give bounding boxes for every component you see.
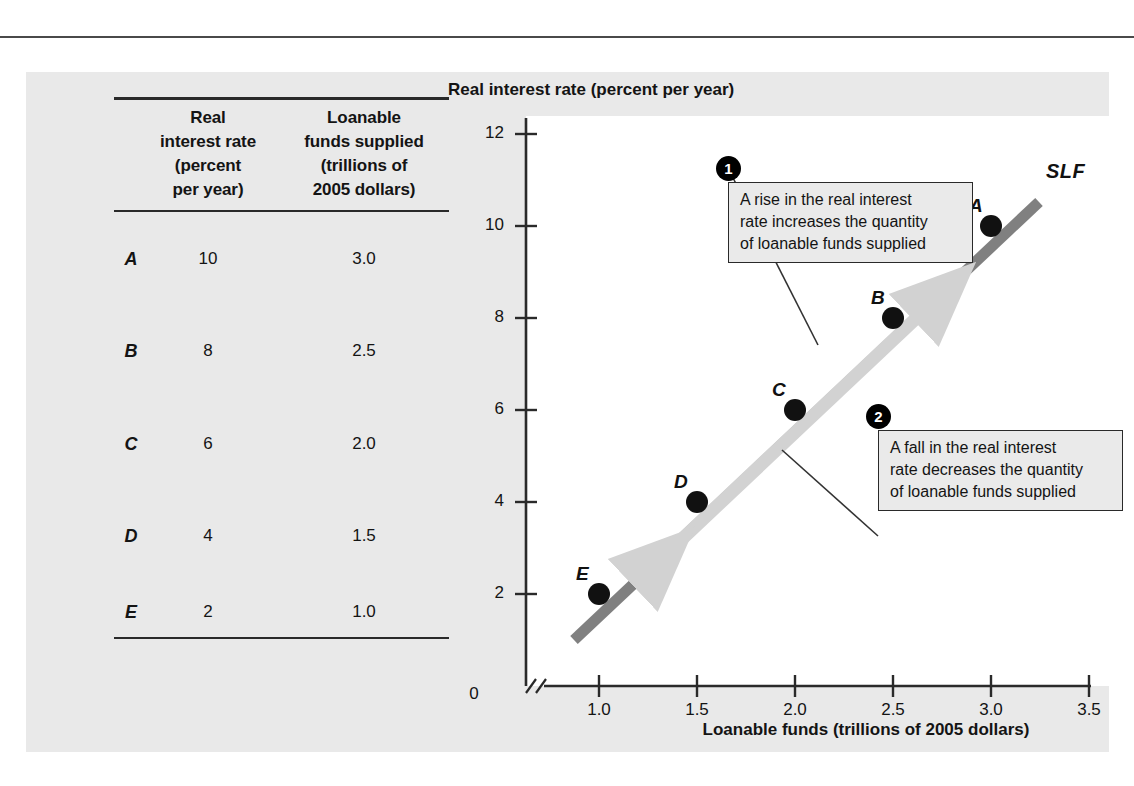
x-tick-label: 2.0 bbox=[772, 700, 818, 720]
table-header-line: (trillions of bbox=[284, 154, 444, 178]
row-funds: 1.0 bbox=[284, 600, 444, 624]
x-tick-label: 2.5 bbox=[870, 700, 916, 720]
callout-1: A rise in the real interest rate increas… bbox=[728, 182, 973, 263]
point-label-B: B bbox=[871, 287, 885, 309]
table-header-line: 2005 dollars) bbox=[284, 178, 444, 202]
table-header-line: (percent bbox=[142, 154, 274, 178]
table-header-line: interest rate bbox=[142, 130, 274, 154]
row-rate: 4 bbox=[142, 524, 274, 548]
table-header-line: per year) bbox=[142, 178, 274, 202]
movement-along-curve-arrow bbox=[663, 292, 944, 557]
data-point-D bbox=[686, 491, 708, 513]
row-rate: 8 bbox=[142, 339, 274, 363]
y-tick-label: 2 bbox=[464, 583, 504, 603]
row-funds: 1.5 bbox=[284, 524, 444, 548]
chart-x-axis-title: Loanable funds (trillions of 2005 dollar… bbox=[626, 720, 1106, 740]
table-bottom-rule bbox=[114, 637, 449, 639]
x-tick-label: 3.0 bbox=[968, 700, 1014, 720]
row-rate: 10 bbox=[142, 247, 274, 271]
table-header-line: Loanable bbox=[284, 106, 444, 130]
callout-1-line-2: rate increases the quantity bbox=[740, 211, 962, 233]
callout-2-line-3: of loanable funds supplied bbox=[890, 481, 1112, 503]
row-rate: 6 bbox=[142, 432, 274, 456]
data-point-E bbox=[588, 583, 610, 605]
point-label-D: D bbox=[674, 471, 688, 493]
chart-graphics bbox=[426, 72, 1109, 752]
table-header-line: Real bbox=[142, 106, 274, 130]
callout-2-line-1: A fall in the real interest bbox=[890, 437, 1112, 459]
row-funds: 2.5 bbox=[284, 339, 444, 363]
point-label-C: C bbox=[772, 379, 786, 401]
slf-curve-label: SLF bbox=[1046, 160, 1085, 183]
table-header-rule bbox=[114, 210, 449, 212]
x-axis-origin-label: 0 bbox=[454, 684, 494, 704]
table-header-loanable-funds: Loanable funds supplied (trillions of 20… bbox=[284, 106, 444, 202]
data-point-A bbox=[980, 215, 1002, 237]
page-header-ghost-left bbox=[8, 2, 608, 30]
table-header-interest-rate: Real interest rate (percent per year) bbox=[142, 106, 274, 202]
callout-1-line-1: A rise in the real interest bbox=[740, 189, 962, 211]
y-tick-label: 8 bbox=[464, 307, 504, 327]
y-tick-label: 12 bbox=[464, 123, 504, 143]
callout-2-line-2: rate decreases the quantity bbox=[890, 459, 1112, 481]
slf-chart: Real interest rate (percent per year) bbox=[426, 72, 1109, 752]
callout-2-number: 2 bbox=[866, 404, 891, 429]
callout-1-line-3: of loanable funds supplied bbox=[740, 233, 962, 255]
x-tick-label: 1.0 bbox=[576, 700, 622, 720]
axis-break-mark bbox=[526, 679, 536, 693]
callout-2-leader-line bbox=[782, 450, 878, 536]
data-point-B bbox=[882, 307, 904, 329]
x-tick-label: 1.5 bbox=[674, 700, 720, 720]
page-top-divider bbox=[0, 36, 1134, 38]
table-header-line: funds supplied bbox=[284, 130, 444, 154]
page-header-ghost-right bbox=[734, 2, 1074, 30]
x-tick-label: 3.5 bbox=[1066, 700, 1112, 720]
y-tick-label: 10 bbox=[464, 215, 504, 235]
row-funds: 2.0 bbox=[284, 432, 444, 456]
point-label-E: E bbox=[576, 563, 589, 585]
row-rate: 2 bbox=[142, 600, 274, 624]
callout-1-number: 1 bbox=[716, 156, 741, 181]
callout-2: A fall in the real interest rate decreas… bbox=[878, 430, 1123, 511]
y-tick-label: 6 bbox=[464, 399, 504, 419]
table-top-rule bbox=[114, 97, 449, 100]
row-funds: 3.0 bbox=[284, 247, 444, 271]
y-tick-label: 4 bbox=[464, 491, 504, 511]
figure-panel: Real interest rate (percent per year) Lo… bbox=[26, 72, 1109, 752]
data-point-C bbox=[784, 399, 806, 421]
